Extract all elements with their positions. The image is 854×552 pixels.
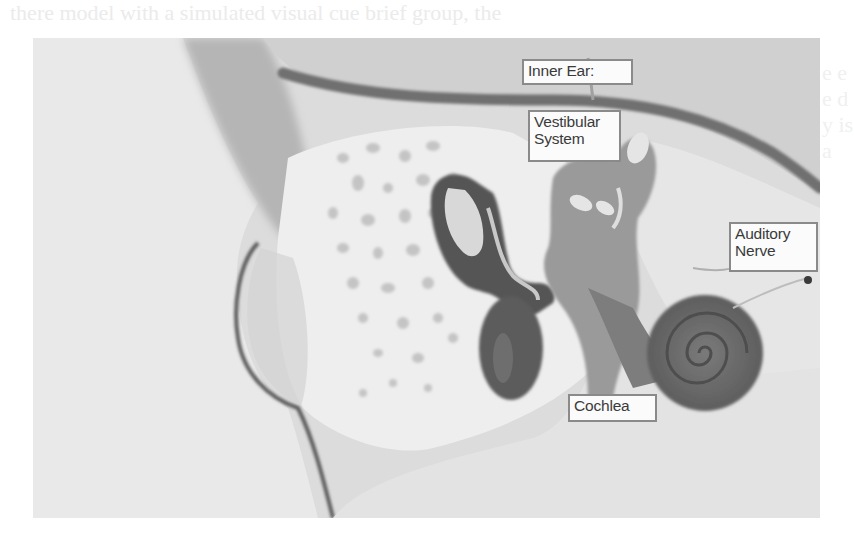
label-inner-ear-text: Inner Ear: (528, 62, 594, 79)
label-vestibular-line2: System (534, 130, 615, 147)
label-vestibular-system: Vestibular System (528, 110, 621, 162)
label-vestibular-line1: Vestibular (534, 113, 615, 130)
label-auditory-line2: Nerve (735, 242, 812, 259)
bleed-through-text-right: e e e d y is a (822, 60, 854, 310)
ear-anatomy-drawing (33, 38, 820, 518)
label-cochlea-text: Cochlea (574, 397, 629, 414)
bleed-through-text-top: there model with a simulated visual cue … (10, 2, 850, 32)
label-inner-ear: Inner Ear: (522, 59, 633, 85)
label-auditory-nerve: Auditory Nerve (729, 222, 818, 272)
label-cochlea: Cochlea (568, 394, 657, 422)
label-auditory-line1: Auditory (735, 225, 812, 242)
inner-ear-illustration: Inner Ear: Vestibular System Auditory Ne… (33, 38, 820, 518)
